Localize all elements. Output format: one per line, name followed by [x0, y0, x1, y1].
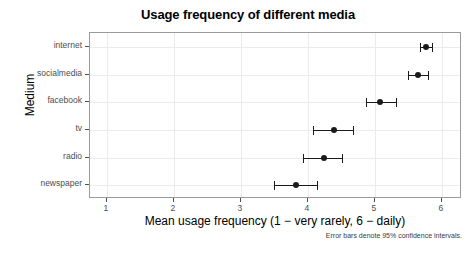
y-tick-label: facebook — [48, 95, 83, 105]
error-bar-cap-high — [317, 181, 318, 190]
x-axis-title: Mean usage frequency (1 − very rarely, 6… — [89, 214, 461, 228]
error-bar-cap-low — [420, 43, 421, 52]
x-tick-label: 1 — [96, 203, 116, 213]
error-bar-cap-low — [274, 181, 275, 190]
data-point — [321, 155, 327, 161]
gridline-vertical — [375, 33, 376, 197]
x-tick-label: 3 — [230, 203, 250, 213]
error-bar-cap-low — [408, 71, 409, 80]
error-bar-cap-low — [366, 98, 367, 107]
y-tick-mark — [85, 101, 89, 102]
plot-panel — [89, 32, 461, 198]
chart-title: Usage frequency of different media — [0, 7, 476, 22]
chart-caption: Error bars denote 95% confidence interva… — [326, 232, 462, 239]
gridline-vertical — [107, 33, 108, 197]
y-axis-title: Medium — [23, 15, 37, 175]
data-point — [293, 182, 299, 188]
x-tick-mark — [374, 198, 375, 202]
data-point — [423, 44, 429, 50]
error-bar-cap-low — [313, 126, 314, 135]
gridline-vertical — [241, 33, 242, 197]
y-tick-label: internet — [54, 40, 82, 50]
gridline-horizontal — [90, 47, 460, 48]
gridline-horizontal — [90, 130, 460, 131]
x-tick-mark — [240, 198, 241, 202]
gridline-vertical — [308, 33, 309, 197]
x-tick-label: 5 — [364, 203, 384, 213]
error-bar-cap-high — [432, 43, 433, 52]
y-tick-mark — [85, 46, 89, 47]
y-tick-mark — [85, 157, 89, 158]
y-tick-mark — [85, 74, 89, 75]
x-tick-mark — [106, 198, 107, 202]
gridline-vertical — [442, 33, 443, 197]
x-tick-label: 4 — [297, 203, 317, 213]
gridline-horizontal — [90, 158, 460, 159]
y-tick-mark — [85, 129, 89, 130]
x-tick-mark — [173, 198, 174, 202]
data-point — [415, 72, 421, 78]
error-bar-cap-high — [353, 126, 354, 135]
error-bar-cap-high — [396, 98, 397, 107]
y-tick-label: socialmedia — [37, 68, 82, 78]
x-tick-label: 2 — [163, 203, 183, 213]
error-bar-cap-low — [303, 154, 304, 163]
x-tick-mark — [441, 198, 442, 202]
chart-figure: Usage frequency of different media Mediu… — [0, 0, 476, 254]
x-tick-label: 6 — [431, 203, 451, 213]
y-tick-label: newspaper — [40, 178, 82, 188]
y-tick-label: radio — [63, 151, 82, 161]
gridline-horizontal — [90, 75, 460, 76]
data-point — [331, 127, 337, 133]
gridline-vertical — [174, 33, 175, 197]
data-point — [377, 99, 383, 105]
y-tick-label: tv — [75, 123, 82, 133]
y-tick-mark — [85, 184, 89, 185]
x-tick-mark — [307, 198, 308, 202]
error-bar-cap-high — [428, 71, 429, 80]
error-bar-cap-high — [342, 154, 343, 163]
gridline-horizontal — [90, 102, 460, 103]
